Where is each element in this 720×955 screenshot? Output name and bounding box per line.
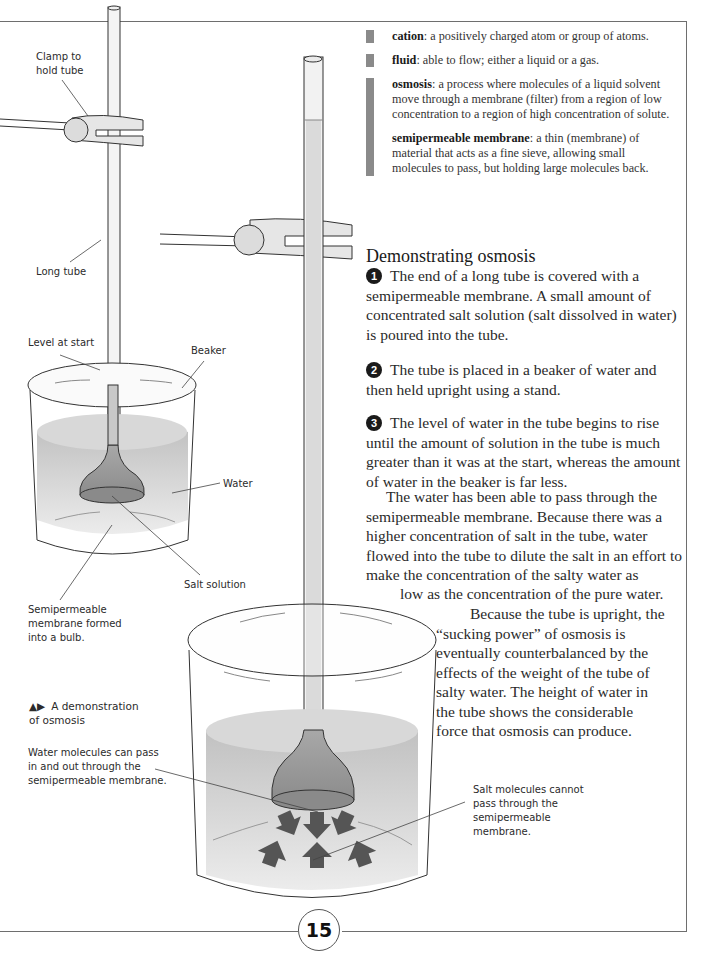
paragraph-2-line: force that osmosis can produce. [436,721,690,741]
label-line: Semipermeable [28,603,122,617]
paragraph-2-line: effects of the weight of the tube of [436,663,690,683]
glossary-marker [366,54,374,67]
label-long-tube: Long tube [36,265,86,279]
caption-pointer-icon: ▲▶ [29,700,45,712]
label-clamp: Clamp to hold tube [36,50,84,78]
label-line: membrane formed [28,617,122,631]
glossary-term: fluid [392,53,416,67]
glossary-item-fluid: fluid: able to flow; either a liquid or … [366,53,676,68]
label-line: hold tube [36,64,84,78]
step-1: 1The end of a long tube is covered with … [366,266,686,344]
section-heading: Demonstrating osmosis [366,246,536,267]
label-salt-molecules: Salt molecules cannot pass through the s… [473,783,584,839]
glossary-item-cation: cation: a positively charged atom or gro… [366,29,676,44]
step-number-icon: 3 [366,415,382,431]
label-line: Salt molecules cannot [473,783,584,797]
paragraph-2-line: Because the tube is upright, the [450,604,690,624]
caption-line: of osmosis [29,713,139,727]
glossary-marker [366,78,374,136]
label-water: Water [223,477,253,491]
glossary-item-osmosis: osmosis: a process where molecules of a … [366,77,676,122]
label-membrane: Semipermeable membrane formed into a bul… [28,603,122,645]
figure-caption: ▲▶A demonstration of osmosis [29,699,139,727]
label-line: semipermeable [473,811,584,825]
step-text: The end of a long tube is covered with a… [366,267,677,343]
step-number-icon: 2 [366,362,382,378]
label-line: semipermeable membrane. [28,774,167,788]
glossary-term: semipermeable membrane [392,131,530,145]
label-salt-solution: Salt solution [184,578,246,592]
step-3: 3The level of water in the tube begins t… [366,413,686,491]
paragraph-1: The water has been able to pass through … [366,487,686,585]
glossary-definition: : a process where molecules of a liquid … [392,77,669,121]
paragraph-2-line: “sucking power” of osmosis is [436,624,690,644]
label-line: pass through the [473,797,584,811]
paragraph-2: Because the tube is upright, the “suckin… [450,604,690,741]
label-line: membrane. [473,825,584,839]
paragraph-1-end: low as the concentration of the pure wat… [400,584,690,604]
label-line: Water molecules can pass [28,746,167,760]
small-apparatus [0,6,196,554]
glossary-marker [366,30,374,43]
label-water-molecules: Water molecules can pass in and out thro… [28,746,167,788]
step-number-icon: 1 [366,268,382,284]
paragraph-2-line: salty water. The height of water in [436,682,690,702]
step-text: The tube is placed in a beaker of water … [366,361,656,398]
step-text: The level of water in the tube begins to… [366,414,680,490]
caption-line: A demonstration [51,700,138,712]
page-number: 15 [298,909,340,951]
label-line: Clamp to [36,50,84,64]
glossary-marker [366,132,374,176]
glossary-term: osmosis [392,77,432,91]
glossary-definition: : a positively charged atom or group of … [424,29,649,43]
glossary-item-semipermeable-membrane: semipermeable membrane: a thin (membrane… [366,131,676,176]
paragraph-2-line: the tube shows the considerable [436,702,690,722]
label-line: into a bulb. [28,631,122,645]
paragraph-2-line: eventually counterbalanced by the [436,643,690,663]
glossary-term: cation [392,29,424,43]
glossary: cation: a positively charged atom or gro… [366,29,676,185]
label-beaker: Beaker [191,344,226,358]
label-line: in and out through the [28,760,167,774]
paragraph-1-text: The water has been able to pass through … [366,488,682,583]
step-2: 2The tube is placed in a beaker of water… [366,360,686,399]
label-level-at-start: Level at start [28,336,94,350]
glossary-definition: : able to flow; either a liquid or a gas… [416,53,599,67]
